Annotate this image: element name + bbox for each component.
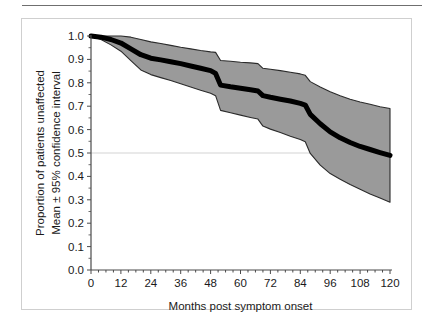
y-axis-ticks: 0.00.10.20.30.40.50.60.70.80.91.0 xyxy=(68,30,91,276)
y-tick-label: 0.1 xyxy=(68,241,84,253)
y-tick-label: 0.4 xyxy=(68,170,85,182)
y-tick-label: 0.9 xyxy=(68,53,84,65)
survival-curve-chart: 01224364860728496108120 0.00.10.20.30.40… xyxy=(0,0,431,324)
x-tick-label: 60 xyxy=(234,277,247,289)
x-tick-label: 48 xyxy=(204,277,217,289)
x-tick-label: 0 xyxy=(88,277,94,289)
y-axis-title-text: Proportion of patients unaffected xyxy=(34,70,46,236)
x-axis-ticks: 01224364860728496108120 xyxy=(88,270,400,289)
x-tick-label: 108 xyxy=(351,277,370,289)
y-tick-label: 0.0 xyxy=(68,264,84,276)
x-tick-label: 120 xyxy=(380,277,399,289)
x-tick-label: 12 xyxy=(115,277,128,289)
confidence-interval-band xyxy=(91,36,390,202)
x-axis-title: Months post symptom onset xyxy=(169,300,314,312)
x-axis-title-text: Months post symptom onset xyxy=(169,300,314,312)
x-tick-label: 24 xyxy=(144,277,157,289)
x-tick-label: 84 xyxy=(294,277,307,289)
x-tick-label: 72 xyxy=(264,277,277,289)
y-tick-label: 0.3 xyxy=(68,194,84,206)
y-tick-label: 1.0 xyxy=(68,30,84,42)
y-tick-label: 0.7 xyxy=(68,100,84,112)
x-tick-label: 36 xyxy=(174,277,187,289)
y-tick-label: 0.2 xyxy=(68,217,84,229)
y-axis-title: Proportion of patients unaffectedMean ± … xyxy=(34,70,62,236)
x-tick-label: 96 xyxy=(324,277,337,289)
y-tick-label: 0.6 xyxy=(68,124,84,136)
y-tick-label: 0.8 xyxy=(68,77,84,89)
y-axis-title-text: Mean ± 95% confidence interval xyxy=(50,71,62,235)
figure-container: 01224364860728496108120 0.00.10.20.30.40… xyxy=(0,0,431,324)
y-tick-label: 0.5 xyxy=(68,147,84,159)
